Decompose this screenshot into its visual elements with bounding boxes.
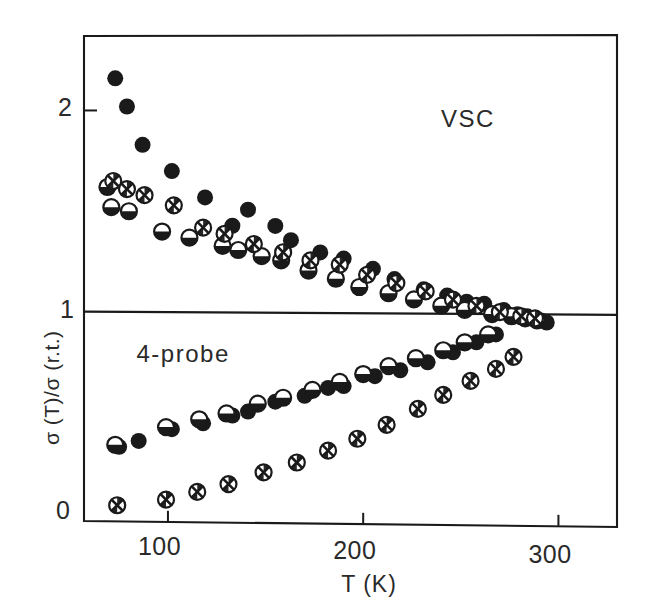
ytick-label-0: 0 xyxy=(56,496,70,525)
data-points xyxy=(99,70,554,513)
y-axis-label: σ (T)/σ (r.t.) xyxy=(40,330,64,445)
x-axis-label: T (K) xyxy=(341,571,397,598)
annotation-vsc: VSC xyxy=(441,105,495,133)
figure-canvas: 2 1 0 100 200 300 T (K) σ (T)/σ (r.t.) V… xyxy=(0,0,649,608)
xtick-label-200: 200 xyxy=(333,536,376,565)
ytick-label-2: 2 xyxy=(58,93,72,122)
plot-frame xyxy=(84,35,617,527)
xtick-label-300: 300 xyxy=(528,540,571,569)
xtick-label-100: 100 xyxy=(138,532,181,561)
annotation-4probe: 4-probe xyxy=(137,340,230,368)
ytick-label-1: 1 xyxy=(60,295,74,324)
chart-plot-area xyxy=(0,0,649,608)
